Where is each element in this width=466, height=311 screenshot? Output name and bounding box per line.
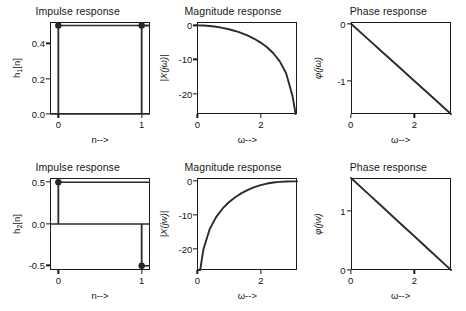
x-tick-mark [58,114,59,118]
x-tick-label: 0 [348,275,353,286]
y-tick-label: 0 [187,20,192,31]
x-tick-label: 0 [56,119,61,130]
y-tick-mark [193,25,197,26]
y-tick-label: 0 [340,264,345,275]
x-tick-label: 1 [139,119,144,130]
y-tick-mark [46,113,50,114]
x-tick-label: 2 [412,275,417,286]
y-tick-label: -20 [179,88,193,99]
x-tick-mark [58,270,59,274]
x-tick-label: 0 [348,119,353,130]
x-tick-mark [414,270,415,274]
x-tick-mark [197,114,198,118]
y-tick-mark [193,93,197,94]
x-tick-label: 2 [258,119,263,130]
magnitude-1-line-plot [197,22,297,114]
x-tick-label: 0 [195,119,200,130]
x-axis-label: n--> [91,134,108,145]
x-tick-label: 2 [258,275,263,286]
x-tick-mark [260,270,261,274]
x-axis-label: ω--> [391,290,410,301]
x-tick-label: 1 [139,275,144,286]
y-axis-label: h2[n] [11,214,22,234]
impulse-1-stem-plot [50,22,150,114]
y-tick-label: -20 [179,244,193,255]
y-tick-mark [193,214,197,215]
y-tick-label: 0.0 [32,109,45,120]
y-tick-mark [193,248,197,249]
y-tick-label: -10 [179,54,193,65]
magnitude-2-line-plot [197,178,297,270]
x-tick-mark [141,114,142,118]
x-tick-mark [141,270,142,274]
impulse-2-stem-plot [50,178,150,270]
x-axis-label: ω--> [238,134,257,145]
x-tick-mark [197,270,198,274]
panel-impulse-2: Impulse response 0.50.0-0.501n-->h2[n] [0,156,155,311]
y-tick-mark [193,180,197,181]
y-tick-label: -0.5 [29,260,45,271]
panel-magnitude-2: Magnitude response 0-10-2002ω-->|X(jw)| [155,156,310,311]
panel-title: Magnitude response [155,161,310,173]
panel-magnitude-1: Magnitude response 0-10-2002ω-->|X(jω)| [155,0,310,156]
y-tick-mark [347,81,351,82]
y-tick-label: 0.4 [32,38,45,49]
phase-1-line-plot [351,22,451,114]
x-axis-label: ω--> [391,134,410,145]
y-tick-mark [46,43,50,44]
x-tick-mark [350,270,351,274]
panel-phase-2: Phase response 1002ω-->φ(jw) [311,156,466,311]
panel-title: Phase response [311,5,466,17]
y-tick-mark [193,59,197,60]
y-tick-mark [347,210,351,211]
y-tick-mark [46,78,50,79]
y-tick-mark [347,23,351,24]
y-tick-mark [46,265,50,266]
y-tick-mark [46,181,50,182]
panel-title: Magnitude response [155,5,310,17]
y-tick-label: 0.5 [32,176,45,187]
x-tick-mark [414,114,415,118]
x-tick-mark [260,114,261,118]
x-tick-label: 2 [412,119,417,130]
x-axis-label: ω--> [238,290,257,301]
y-axis-label: h1[n] [11,58,22,78]
y-tick-label: 0 [340,18,345,29]
y-tick-mark [46,223,50,224]
y-tick-label: 0 [187,175,192,186]
panel-title: Phase response [311,161,466,173]
y-axis-label: |X(jw)| [158,210,169,237]
x-tick-mark [350,114,351,118]
y-axis-label: φ(jw) [311,213,322,235]
x-tick-label: 0 [56,275,61,286]
y-axis-label: φ(jω) [311,57,322,79]
panel-phase-1: Phase response 0-102ω-->φ(jω) [311,0,466,156]
y-axis-label: |X(jω)| [158,54,169,81]
phase-2-line-plot [351,178,451,270]
y-tick-label: -10 [179,209,193,220]
figure-grid: Impulse response 0.00.20.401n-->h1[n] Ma… [0,0,466,311]
panel-title: Impulse response [0,161,155,173]
y-tick-label: 0.2 [32,73,45,84]
x-axis-label: n--> [91,290,108,301]
x-tick-label: 0 [195,275,200,286]
panel-impulse-1: Impulse response 0.00.20.401n-->h1[n] [0,0,155,156]
y-tick-label: -1 [337,76,345,87]
panel-title: Impulse response [0,5,155,17]
y-tick-label: 1 [340,205,345,216]
y-tick-label: 0.0 [32,218,45,229]
